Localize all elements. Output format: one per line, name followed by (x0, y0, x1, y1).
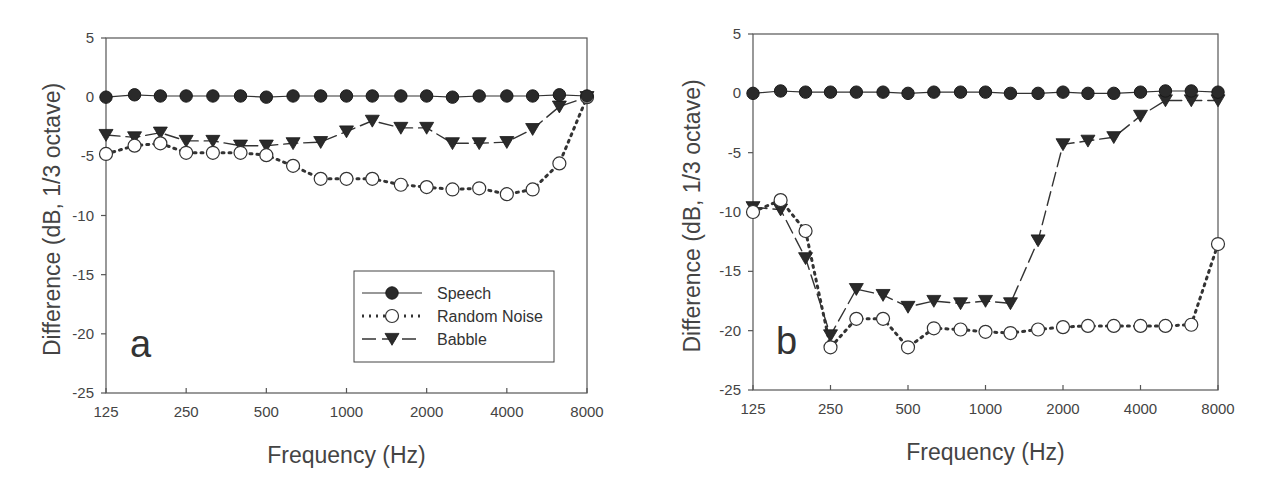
open-circle-marker-icon (314, 172, 327, 185)
panel-letter: b (776, 320, 797, 362)
filled-circle-marker-icon (553, 89, 565, 101)
open-circle-marker-icon (100, 147, 113, 160)
triangle-down-marker-icon (849, 284, 863, 296)
filled-circle-marker-icon (314, 90, 326, 102)
triangle-down-marker-icon (340, 126, 354, 138)
x-tick-label: 2000 (410, 403, 443, 420)
open-circle-marker-icon (287, 159, 300, 172)
filled-circle-marker-icon (340, 90, 352, 102)
x-tick-label: 500 (895, 400, 920, 417)
filled-circle-marker-icon (1212, 86, 1224, 98)
y-axis-title: Difference (dB, 1/3 octave) (679, 79, 705, 352)
series-markers-random-noise (747, 194, 1225, 354)
open-circle-marker-icon (1057, 321, 1070, 334)
open-circle-marker-icon (473, 182, 486, 195)
y-tick-label: -15 (72, 266, 94, 283)
filled-circle-marker-icon (128, 89, 140, 101)
filled-circle-marker-icon (1159, 85, 1171, 97)
triangle-down-marker-icon (1003, 298, 1017, 310)
open-circle-marker-icon (927, 322, 940, 335)
open-circle-marker-icon (154, 137, 167, 150)
open-circle-marker-icon (180, 146, 193, 159)
filled-circle-marker-icon (747, 87, 759, 99)
x-axis-title: Frequency (Hz) (906, 439, 1064, 465)
triangle-down-marker-icon (876, 289, 890, 301)
open-circle-marker-icon (1107, 319, 1120, 332)
filled-circle-marker-icon (954, 86, 966, 98)
open-circle-marker-icon (526, 183, 539, 196)
series-markers-random-noise (100, 91, 594, 201)
open-circle-marker-icon (1134, 319, 1147, 332)
x-tick-label: 4000 (1124, 400, 1157, 417)
y-tick-label: -15 (719, 262, 741, 279)
open-circle-marker-icon (446, 183, 459, 196)
filled-circle-marker-icon (581, 90, 593, 102)
filled-circle-marker-icon (180, 90, 192, 102)
filled-circle-marker-icon (526, 90, 538, 102)
filled-circle-marker-icon (774, 85, 786, 97)
y-tick-label: -20 (719, 322, 741, 339)
triangle-down-marker-icon (1056, 139, 1070, 151)
panel-a-chart: 50-5-10-15-20-25125250500100020004000800… (39, 29, 604, 468)
panel-letter: a (130, 323, 152, 365)
open-circle-marker-icon (799, 224, 812, 237)
open-circle-marker-icon (1159, 319, 1172, 332)
triangle-down-marker-icon (901, 301, 915, 313)
triangle-down-marker-icon (526, 124, 540, 136)
filled-circle-marker-icon (1134, 86, 1146, 98)
filled-circle-marker-icon (287, 90, 299, 102)
filled-circle-marker-icon (902, 87, 914, 99)
open-circle-marker-icon (1004, 327, 1017, 340)
filled-circle-marker-icon (395, 90, 407, 102)
filled-circle-marker-icon (1004, 87, 1016, 99)
filled-circle-marker-icon (446, 91, 458, 103)
open-circle-marker-icon (747, 206, 760, 219)
filled-circle-marker-icon (501, 90, 513, 102)
filled-circle-marker-icon (1108, 87, 1120, 99)
open-circle-marker-icon (420, 181, 433, 194)
filled-circle-marker-icon (420, 90, 432, 102)
y-tick-label: 5 (733, 25, 741, 42)
x-tick-label: 1000 (969, 400, 1002, 417)
legend: SpeechRandom NoiseBabble (354, 271, 554, 362)
figure: 50-5-10-15-20-25125250500100020004000800… (0, 0, 1285, 493)
open-circle-marker-icon (877, 312, 890, 325)
y-axis-title: Difference (dB, 1/3 octave) (39, 83, 65, 356)
y-tick-label: -5 (728, 144, 741, 161)
open-circle-marker-icon (1212, 238, 1225, 251)
x-tick-label: 500 (254, 403, 279, 420)
x-tick-label: 125 (740, 400, 765, 417)
y-tick-label: -25 (72, 384, 94, 401)
filled-circle-marker-icon (850, 86, 862, 98)
filled-circle-marker-icon (386, 287, 398, 299)
open-circle-marker-icon (366, 172, 379, 185)
filled-circle-marker-icon (877, 86, 889, 98)
filled-circle-marker-icon (1032, 87, 1044, 99)
filled-circle-marker-icon (154, 90, 166, 102)
open-circle-marker-icon (1185, 318, 1198, 331)
open-circle-marker-icon (340, 172, 353, 185)
x-tick-label: 8000 (1201, 400, 1234, 417)
legend-label: Babble (437, 331, 487, 348)
filled-circle-marker-icon (234, 90, 246, 102)
open-circle-marker-icon (386, 310, 399, 323)
filled-circle-marker-icon (366, 90, 378, 102)
filled-circle-marker-icon (928, 86, 940, 98)
filled-circle-marker-icon (1082, 87, 1094, 99)
open-circle-marker-icon (824, 341, 837, 354)
open-circle-marker-icon (394, 178, 407, 191)
x-axis-title: Frequency (Hz) (267, 442, 425, 468)
legend-label: Random Noise (437, 308, 543, 325)
open-circle-marker-icon (206, 146, 219, 159)
open-circle-marker-icon (774, 194, 787, 207)
filled-circle-marker-icon (824, 86, 836, 98)
y-tick-label: -10 (72, 207, 94, 224)
x-tick-label: 125 (93, 403, 118, 420)
open-circle-marker-icon (128, 139, 141, 152)
open-circle-marker-icon (234, 146, 247, 159)
filled-circle-marker-icon (1057, 86, 1069, 98)
filled-circle-marker-icon (260, 91, 272, 103)
y-tick-label: 0 (86, 88, 94, 105)
filled-circle-marker-icon (799, 86, 811, 98)
y-tick-label: -20 (72, 325, 94, 342)
